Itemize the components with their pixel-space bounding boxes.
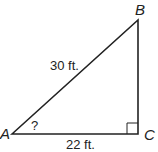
- base-label: 22 ft.: [66, 137, 95, 152]
- triangle-abc: [12, 20, 138, 134]
- triangle-diagram: A B C 30 ft. 22 ft. ?: [0, 0, 158, 152]
- right-angle-marker: [127, 123, 138, 134]
- hypotenuse-label: 30 ft.: [50, 58, 79, 73]
- vertex-c-label: C: [144, 126, 155, 143]
- vertex-a-label: A: [0, 125, 10, 142]
- vertex-b-label: B: [135, 1, 145, 18]
- angle-a-unknown-label: ?: [31, 118, 38, 133]
